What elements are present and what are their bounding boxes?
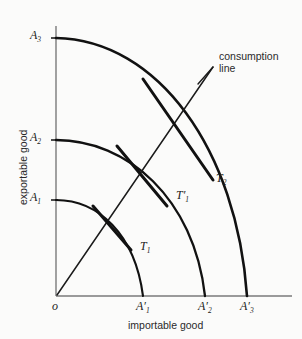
tangent-segment-t1 bbox=[93, 206, 131, 250]
ppf-curve-a3 bbox=[56, 38, 247, 296]
tangent-label-t1-prime: T′1 bbox=[176, 189, 189, 204]
consumption-line-annotation-row1: consumption bbox=[219, 50, 279, 62]
y-intercept-label-a1: A1 bbox=[30, 191, 41, 206]
origin-label: o bbox=[52, 300, 58, 313]
tangent-label-t1: T1 bbox=[140, 240, 150, 255]
y-intercept-label-a2: A2 bbox=[30, 131, 41, 146]
tangent-label-t2: T2 bbox=[216, 172, 226, 187]
y-axis-title: exportable good bbox=[18, 130, 29, 205]
y-intercept-label-a3: A3 bbox=[30, 29, 41, 44]
consumption-line-annotation: consumption line bbox=[219, 50, 279, 75]
x-intercept-label-a1-prime: A′1 bbox=[136, 300, 150, 315]
x-intercept-label-a2-prime: A′2 bbox=[198, 300, 212, 315]
consumption-leader-line bbox=[198, 67, 213, 84]
consumption-line-annotation-row2: line bbox=[219, 62, 279, 74]
tangent-segment-t2 bbox=[143, 79, 213, 180]
x-axis-title: importable good bbox=[128, 320, 203, 331]
x-intercept-label-a3-prime: A′3 bbox=[240, 300, 254, 315]
ppf-diagram: A1 A2 A3 o A′1 A′2 A′3 T1 T′1 T2 consump… bbox=[0, 0, 302, 339]
